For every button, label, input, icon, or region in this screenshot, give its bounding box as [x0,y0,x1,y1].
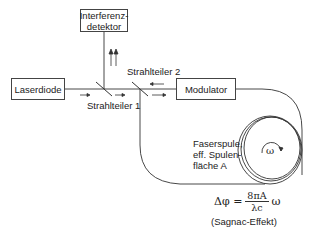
sagnac-formula: Δφ = 8πA λc ω [214,190,281,213]
splitter2-label: Strahlteiler 2 [127,66,180,77]
coil-label-line3: fläche A [193,160,243,171]
coil-label: Faserspule, eff. Spulen- fläche A [193,138,243,171]
formula-fraction: 8πA λc [245,190,268,213]
detector-label-line1: Interferenz- [80,10,129,21]
formula-denominator: λc [249,202,264,213]
splitter1-label: Strahlteiler 1 [87,100,140,111]
modulator-label: Modulator [185,84,227,95]
modulator-box: Modulator [176,78,236,100]
laser-diode-box: Laserdiode [11,78,65,100]
coil-label-line1: Faserspule, [193,138,243,149]
coil-label-line2: eff. Spulen- [193,149,243,160]
formula-lhs: Δφ = [214,195,242,208]
detector-label-line2: detektor [87,21,121,32]
formula-numerator: 8πA [245,190,268,202]
omega-symbol: ω [266,145,274,156]
interference-detector-box: Interferenz- detektor [80,9,128,32]
laser-label: Laserdiode [14,84,61,95]
formula-caption: (Sagnac-Effekt) [211,216,277,227]
formula-rhs: ω [272,195,281,208]
